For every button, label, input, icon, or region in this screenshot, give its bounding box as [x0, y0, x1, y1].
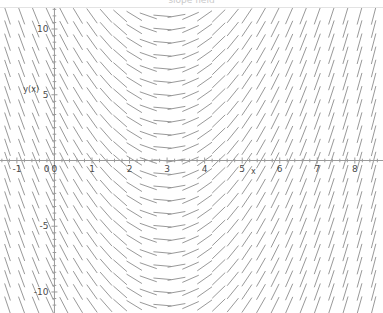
slope-segment	[257, 34, 266, 50]
slope-segment	[257, 21, 266, 37]
slope-segment	[113, 233, 127, 245]
slope-segment	[140, 171, 157, 177]
slope-segment	[197, 274, 212, 284]
slope-segment	[46, 47, 53, 63]
slope-segment	[87, 179, 97, 194]
slope-segment	[271, 192, 279, 208]
slope-segment	[46, 179, 53, 195]
slope-segment	[73, 87, 82, 102]
slope-segment	[87, 35, 97, 50]
slope-segment	[18, 244, 24, 261]
slope-segment	[73, 192, 82, 207]
slope-segment	[113, 168, 127, 180]
slope-segment	[197, 221, 212, 231]
slope-segment	[182, 236, 198, 243]
slope-segment	[168, 198, 186, 201]
x-tick-label: 1	[89, 164, 95, 174]
slope-segment	[212, 115, 225, 127]
slope-segment	[212, 181, 225, 193]
slope-segment	[18, 270, 24, 287]
slope-segment	[271, 74, 279, 90]
slope-segment	[153, 212, 171, 214]
slope-segment	[100, 75, 112, 89]
slope-segment	[286, 34, 293, 50]
slope-segment	[257, 74, 266, 90]
slope-segment	[197, 234, 212, 244]
slope-segment	[168, 251, 186, 254]
slope-segment	[242, 22, 252, 37]
slope-segment	[168, 146, 186, 149]
slope-segment	[140, 184, 157, 190]
slope-segment	[197, 195, 212, 205]
slope-segment	[300, 34, 307, 51]
slope-segment	[32, 257, 39, 274]
slope-segment	[242, 206, 252, 221]
slope-segment	[212, 299, 225, 311]
slope-segment	[100, 285, 112, 299]
slope-segment	[242, 35, 252, 50]
slope-segment	[271, 113, 279, 129]
slope-segment	[127, 287, 142, 296]
slope-segment	[32, 126, 39, 143]
slope-segment	[87, 61, 97, 76]
slope-segment	[73, 8, 82, 23]
slope-segment	[153, 147, 171, 149]
slope-segment	[242, 232, 252, 247]
slope-segment	[32, 192, 39, 209]
clipped-header-text: slope field	[0, 0, 383, 6]
slope-segment	[212, 246, 225, 258]
slope-segment	[197, 24, 212, 34]
slope-segment	[153, 68, 171, 70]
slope-segment	[127, 103, 142, 112]
slope-segment	[100, 49, 112, 63]
slope-segment	[140, 210, 157, 216]
slope-segment	[286, 218, 293, 234]
slope-segment	[18, 47, 24, 64]
slope-segment	[127, 37, 142, 46]
slope-segment	[227, 246, 238, 260]
slope-segment	[87, 9, 97, 24]
slope-segment	[197, 103, 212, 113]
slope-segment	[182, 288, 198, 295]
slope-segment	[168, 54, 186, 57]
slope-segment	[100, 9, 112, 23]
slope-segment	[73, 179, 82, 194]
slope-segment	[100, 35, 112, 49]
slope-segment	[286, 87, 293, 103]
slope-segment	[100, 180, 112, 194]
slope-segment	[113, 260, 127, 272]
slope-segment	[18, 191, 24, 208]
slope-segment	[197, 287, 212, 297]
slope-segment	[46, 100, 53, 116]
slope-segment	[227, 9, 238, 23]
slope-segment	[127, 274, 142, 283]
slope-segment	[227, 88, 238, 102]
slope-segment	[113, 273, 127, 285]
slope-segment	[168, 172, 186, 175]
y-tick-label: 5	[43, 90, 49, 100]
slope-segment	[140, 105, 157, 111]
slope-segment	[153, 28, 171, 30]
slope-segment	[212, 207, 225, 219]
slope-segment	[73, 258, 82, 273]
slope-segment	[271, 60, 279, 76]
slope-segment	[127, 235, 142, 244]
slope-segment	[182, 117, 198, 124]
slope-segment	[32, 178, 39, 195]
slope-segment	[257, 48, 266, 64]
slope-segment	[257, 205, 266, 221]
slope-segment	[32, 244, 39, 261]
slope-segment	[257, 218, 266, 234]
slope-segment	[100, 219, 112, 233]
slope-segment	[227, 232, 238, 246]
slope-segment	[100, 206, 112, 220]
slope-segment	[60, 205, 68, 221]
slope-segment	[73, 245, 82, 260]
slope-segment	[140, 66, 157, 72]
slope-segment	[113, 128, 127, 140]
slope-segment	[127, 222, 142, 231]
slope-segment	[100, 22, 112, 36]
slope-segment	[153, 15, 171, 17]
slope-segment	[60, 297, 68, 313]
slope-segment	[18, 257, 24, 274]
